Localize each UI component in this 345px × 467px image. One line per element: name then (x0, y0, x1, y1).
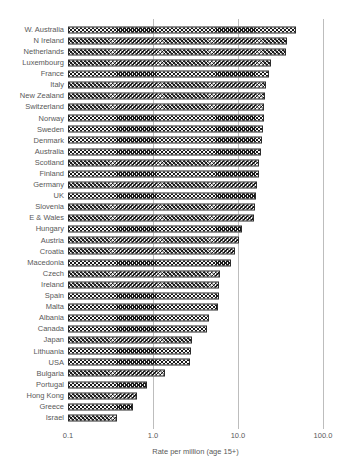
chart-row: Sweden (0, 124, 345, 135)
bar (68, 148, 261, 155)
bar-area (68, 335, 323, 346)
category-label: New Zealand (0, 92, 68, 100)
chart-row: Austria (0, 235, 345, 246)
bar (68, 281, 219, 288)
category-label: Malta (0, 303, 68, 311)
category-label: Germany (0, 181, 68, 189)
bar (68, 137, 262, 144)
category-label: W. Australia (0, 26, 68, 34)
bar (68, 70, 269, 77)
bar-area (68, 390, 323, 401)
chart-row: E & Wales (0, 213, 345, 224)
bar (68, 181, 257, 188)
chart-row: Spain (0, 290, 345, 301)
category-label: Macedonia (0, 259, 68, 267)
chart-row: Finland (0, 168, 345, 179)
bar (68, 226, 242, 233)
bar (68, 370, 165, 377)
bar-area (68, 246, 323, 257)
bar-area (68, 179, 323, 190)
bar-area (68, 379, 323, 390)
bar (68, 337, 192, 344)
category-label: E & Wales (0, 214, 68, 222)
chart-row: Bulgaria (0, 368, 345, 379)
bar (68, 348, 191, 355)
bar (68, 414, 117, 421)
x-tick-label: 0.1 (63, 431, 73, 440)
chart-row: Israel (0, 412, 345, 423)
category-label: Scotland (0, 159, 68, 167)
category-label: Norway (0, 115, 68, 123)
bar-area (68, 102, 323, 113)
category-label: Canada (0, 325, 68, 333)
category-label: Sweden (0, 126, 68, 134)
category-label: Israel (0, 414, 68, 422)
category-label: Spain (0, 292, 68, 300)
bar-area (68, 401, 323, 412)
bar-area (68, 124, 323, 135)
chart-row: Netherlands (0, 46, 345, 57)
chart-row: New Zealand (0, 91, 345, 102)
category-label: Japan (0, 336, 68, 344)
chart-row: France (0, 68, 345, 79)
category-label: Lithuania (0, 348, 68, 356)
bar (68, 48, 286, 55)
bar (68, 37, 287, 44)
bar (68, 303, 218, 310)
bar (68, 126, 263, 133)
bar (68, 104, 264, 111)
bar-area (68, 224, 323, 235)
category-label: Portugal (0, 381, 68, 389)
category-label: Ireland (0, 281, 68, 289)
chart-row: Canada (0, 324, 345, 335)
bar-area (68, 412, 323, 423)
bar-area (68, 168, 323, 179)
bar (68, 170, 259, 177)
category-label: Italy (0, 81, 68, 89)
bar (68, 192, 256, 199)
chart-row: W. Australia (0, 24, 345, 35)
category-label: UK (0, 192, 68, 200)
bar-area (68, 324, 323, 335)
bar (68, 159, 259, 166)
chart-row: Malta (0, 301, 345, 312)
category-label: Greece (0, 403, 68, 411)
chart-row: N Ireland (0, 35, 345, 46)
chart-row: Switzerland (0, 102, 345, 113)
category-label: Albania (0, 314, 68, 322)
chart-row: Albania (0, 312, 345, 323)
bar (68, 392, 137, 399)
bar-area (68, 202, 323, 213)
bar-area (68, 46, 323, 57)
bar-area (68, 368, 323, 379)
bar-area (68, 312, 323, 323)
chart-row: Hungary (0, 224, 345, 235)
bar-area (68, 268, 323, 279)
chart-row: Lithuania (0, 346, 345, 357)
bar-area (68, 346, 323, 357)
chart-row: Macedonia (0, 257, 345, 268)
category-label: Hungary (0, 225, 68, 233)
bar-area (68, 190, 323, 201)
bar (68, 403, 133, 410)
bar (68, 270, 220, 277)
category-label: Denmark (0, 137, 68, 145)
x-tick-label: 100.0 (314, 431, 333, 440)
bar-area (68, 135, 323, 146)
bar (68, 259, 231, 266)
category-label: N Ireland (0, 37, 68, 45)
category-label: Australia (0, 148, 68, 156)
chart-row: Germany (0, 179, 345, 190)
bar (68, 215, 254, 222)
bar (68, 26, 296, 33)
chart-row: Czech (0, 268, 345, 279)
category-label: France (0, 70, 68, 78)
bar (68, 204, 255, 211)
category-label: Hong Kong (0, 392, 68, 400)
bar-area (68, 35, 323, 46)
category-label: Luxembourg (0, 59, 68, 67)
chart-row: Scotland (0, 157, 345, 168)
chart-row: Australia (0, 146, 345, 157)
bar-area (68, 113, 323, 124)
bar-area (68, 57, 323, 68)
